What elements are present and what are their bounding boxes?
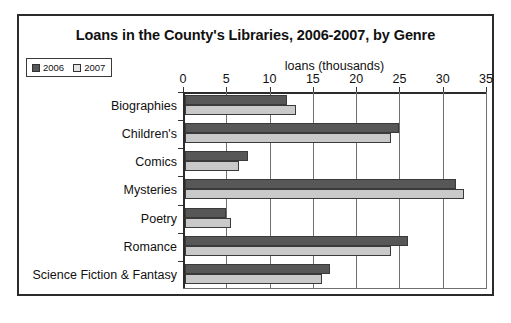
chart-title: Loans in the County's Libraries, 2006-20… [19,27,492,43]
bar-row: Science Fiction & Fantasy [183,261,486,289]
y-tick-mark [178,233,183,234]
x-tick-label: 30 [436,72,450,86]
plot-area: 05101520253035 BiographiesChildren'sComi… [183,92,486,289]
y-tick-mark [178,148,183,149]
bar-2006 [185,264,330,274]
y-tick-mark [178,261,183,262]
category-label: Mysteries [124,183,177,197]
y-tick-mark [178,205,183,206]
bar-2006 [185,123,399,133]
bar-row: Poetry [183,205,486,233]
y-tick-mark [178,92,183,93]
legend-label-2007: 2007 [84,62,105,73]
bar-2007 [185,161,239,171]
bar-2007 [185,105,296,115]
bar-2007 [185,133,391,143]
x-tick-label: 25 [392,72,406,86]
chart-legend: 2006 2007 [26,58,112,77]
bar-2006 [185,95,287,105]
bar-2007 [185,274,322,284]
bar-row: Mysteries [183,176,486,204]
x-axis-title: loans (thousands) [183,59,486,73]
bar-2006 [185,208,226,218]
bar-2007 [185,218,231,228]
gridline [486,92,487,289]
category-label: Comics [135,155,177,169]
category-label: Science Fiction & Fantasy [32,268,177,282]
bar-row: Romance [183,233,486,261]
y-tick-mark [178,120,183,121]
bar-2007 [185,189,464,199]
x-tick-label: 20 [349,72,363,86]
bar-2006 [185,236,408,246]
category-label: Romance [124,240,178,254]
legend-swatch-2007 [73,64,81,72]
legend-item-2007: 2007 [73,62,105,73]
bar-row: Comics [183,148,486,176]
bar-2006 [185,151,248,161]
category-label: Poetry [141,212,177,226]
x-tick-label: 0 [180,72,187,86]
bar-2007 [185,246,391,256]
category-label: Children's [122,127,177,141]
bar-2006 [185,179,456,189]
x-tick-label: 35 [479,72,493,86]
bar-row: Biographies [183,92,486,120]
y-tick-mark [178,176,183,177]
legend-swatch-2006 [32,64,40,72]
x-tick-label: 5 [223,72,230,86]
x-tick-label: 10 [263,72,277,86]
chart-frame: Loans in the County's Libraries, 2006-20… [17,14,494,296]
bar-row: Children's [183,120,486,148]
legend-label-2006: 2006 [43,62,64,73]
x-tick-label: 15 [306,72,320,86]
category-label: Biographies [111,99,177,113]
legend-item-2006: 2006 [32,62,64,73]
